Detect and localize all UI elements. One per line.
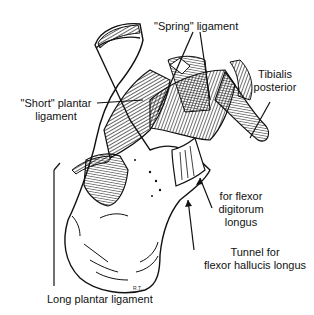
label-short-plantar-ligament: "Short" plantar ligament <box>14 97 98 123</box>
label-fdl-line1: for flexor <box>213 190 269 203</box>
label-short-plantar-line2: ligament <box>14 110 98 123</box>
label-fdl-line3: longus <box>213 216 269 229</box>
label-tibialis-line1: Tibialis <box>247 68 303 81</box>
anatomy-figure: "Spring" ligament Tibialis posterior "Sh… <box>0 0 314 315</box>
label-short-plantar-line1: "Short" plantar <box>14 97 98 110</box>
label-tibialis-line2: posterior <box>247 81 303 94</box>
label-spring-ligament: "Spring" ligament <box>154 20 238 33</box>
label-flexor-digitorum-longus: for flexor digitorum longus <box>213 190 269 229</box>
label-fhl-line1: Tunnel for <box>200 246 310 259</box>
label-long-plantar-ligament: Long plantar ligament <box>47 293 153 306</box>
label-fhl-line2: flexor hallucis longus <box>200 259 310 272</box>
label-flexor-hallucis-longus: Tunnel for flexor hallucis longus <box>200 246 310 272</box>
label-fdl-line2: digitorum <box>213 203 269 216</box>
artist-signature: R.T. <box>133 285 142 291</box>
label-tibialis-posterior: Tibialis posterior <box>247 68 303 94</box>
